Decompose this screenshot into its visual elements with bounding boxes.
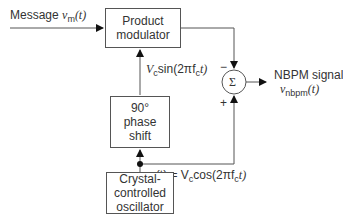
summer-symbol: Σ [229,75,236,89]
oscillator-block: Crystal- controlled oscillator [106,172,174,214]
junction-dot [137,161,143,167]
plus-sign: + [220,96,227,110]
minus-sign: − [220,60,227,74]
output-label: NBPM signal vnbpm(t) [274,68,343,100]
product-modulator-block: Product modulator [105,8,181,48]
sin-signal-label: Vcsin(2πfct) [146,62,207,80]
phase-shift-block: 90° phase shift [110,96,170,148]
message-label: Message vm(t) [10,8,86,26]
